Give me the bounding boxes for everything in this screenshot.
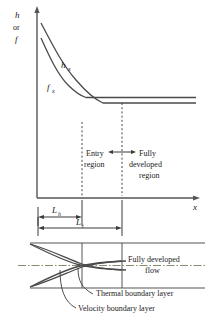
y-axis-label-or: or <box>13 23 20 32</box>
y-axis-label-f: f <box>15 34 19 44</box>
svg-text:h: h <box>61 60 66 70</box>
entry-region-line2: region <box>84 160 104 169</box>
thermal-bl-leader <box>78 268 93 294</box>
figure-canvas: h or f x h x f x Entry region Fully deve… <box>0 0 210 319</box>
fd-flow-line2: flow <box>145 266 160 275</box>
dimension-Lt: L t <box>38 200 122 236</box>
y-axis-label-h: h <box>15 10 20 20</box>
fd-region-line3: region <box>139 171 159 180</box>
velocity-bl-top <box>30 244 122 270</box>
x-axis-arrowhead <box>193 196 200 201</box>
Lh-label-sub: h <box>58 211 61 217</box>
Lt-label-base: L <box>75 217 81 227</box>
x-axis <box>37 196 200 201</box>
entry-region-line1: Entry <box>86 149 104 158</box>
x-axis-label: x <box>192 202 197 212</box>
thermal-bl-label: Thermal boundary layer <box>96 289 174 298</box>
svg-text:x: x <box>51 88 55 94</box>
fd-region-line2: developed <box>129 160 162 169</box>
velocity-bl-bottom <box>30 261 122 287</box>
y-axis <box>34 6 39 198</box>
fd-region-line1: Fully <box>139 149 156 158</box>
fd-flow-line1: Fully developed <box>128 255 180 264</box>
entry-region-label: Entry region <box>84 149 104 169</box>
f-x-label: f x <box>47 82 55 94</box>
y-axis-arrowhead <box>34 6 39 13</box>
svg-text:f: f <box>47 82 51 92</box>
svg-text:x: x <box>67 66 71 72</box>
fully-developed-region-label: Fully developed region <box>129 149 162 180</box>
velocity-bl-label: Velocity boundary layer <box>78 304 155 313</box>
Lh-label-base: L <box>51 205 57 215</box>
velocity-bl-leader <box>60 270 76 308</box>
